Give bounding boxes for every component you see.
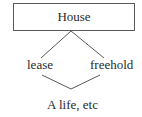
house-tenure-diagram: House lease freehold A life, etc bbox=[0, 0, 142, 117]
node-lease: lease bbox=[27, 58, 53, 72]
edge-house-to-freehold bbox=[71, 31, 104, 58]
node-freehold: freehold bbox=[90, 58, 133, 72]
edge-house-to-lease bbox=[41, 31, 71, 58]
node-a-life-etc: A life, etc bbox=[47, 98, 98, 112]
edge-freehold-to-life bbox=[71, 75, 100, 89]
edge-lease-to-life bbox=[42, 75, 71, 89]
node-house-label: House bbox=[57, 9, 90, 25]
node-house: House bbox=[13, 3, 135, 31]
